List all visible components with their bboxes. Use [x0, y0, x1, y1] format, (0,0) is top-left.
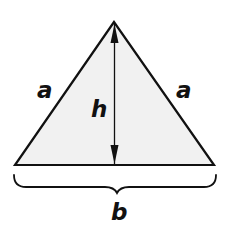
label-base-b: b — [111, 199, 127, 225]
isosceles-triangle-diagram: a h a b — [0, 0, 232, 232]
label-right-side-a: a — [176, 77, 192, 103]
base-brace — [14, 175, 216, 193]
label-left-side-a: a — [37, 77, 53, 103]
label-height-h: h — [91, 96, 107, 122]
